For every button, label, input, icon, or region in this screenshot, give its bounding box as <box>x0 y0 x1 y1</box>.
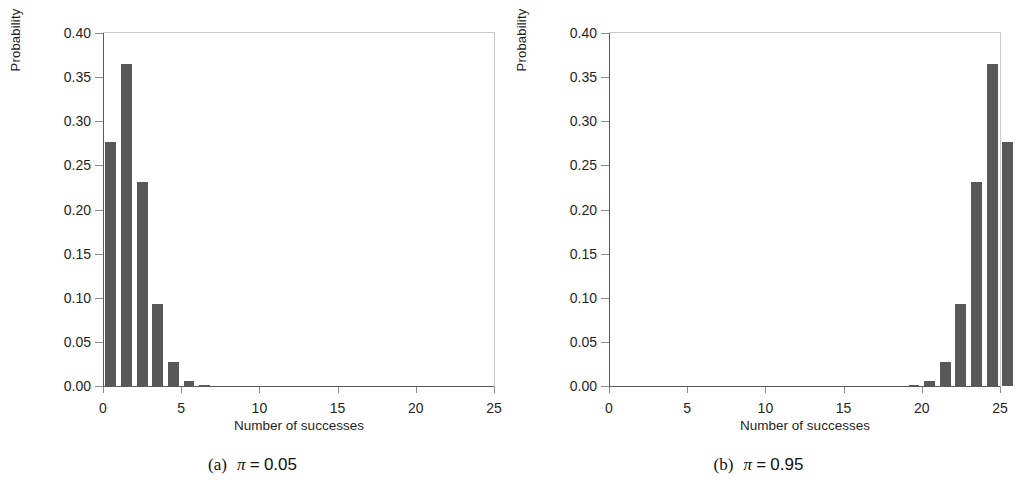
y-tick-a-8 <box>95 33 103 34</box>
bar-b-x20 <box>924 381 935 386</box>
x-axis-label-b: Number of successes <box>609 418 1001 433</box>
y-tick-b-5 <box>601 165 609 166</box>
y-tick-label-b-2: 0.10 <box>537 291 597 305</box>
bar-b-x23 <box>971 182 982 386</box>
x-tick-label-b-5: 25 <box>980 401 1017 415</box>
bar-a-x6 <box>199 385 210 386</box>
bar-a-x4 <box>168 362 179 386</box>
y-tick-a-6 <box>95 121 103 122</box>
y-tick-label-b-1: 0.05 <box>537 335 597 349</box>
bar-b-x19 <box>909 385 920 386</box>
x-tick-b-1 <box>687 387 688 393</box>
y-tick-label-a-6: 0.30 <box>31 114 91 128</box>
x-tick-label-b-1: 5 <box>667 401 707 415</box>
x-tick-a-1 <box>181 387 182 393</box>
x-tick-label-b-4: 20 <box>902 401 942 415</box>
y-tick-b-8 <box>601 33 609 34</box>
bar-b-x21 <box>940 362 951 386</box>
x-tick-a-5 <box>494 387 495 393</box>
y-tick-b-7 <box>601 77 609 78</box>
bar-b-x24 <box>987 64 998 386</box>
y-tick-b-2 <box>601 298 609 299</box>
caption-pi-symbol-b: π <box>743 455 752 474</box>
y-tick-b-3 <box>601 254 609 255</box>
y-tick-a-3 <box>95 254 103 255</box>
x-tick-label-a-3: 15 <box>318 401 358 415</box>
y-tick-label-b-7: 0.35 <box>537 70 597 84</box>
y-tick-b-0 <box>601 386 609 387</box>
bar-a-x2 <box>137 182 148 386</box>
x-axis-line-b <box>609 386 1000 387</box>
x-tick-label-a-1: 5 <box>161 401 201 415</box>
y-tick-label-a-5: 0.25 <box>31 158 91 172</box>
x-tick-a-0 <box>103 387 104 393</box>
y-tick-b-6 <box>601 121 609 122</box>
y-tick-label-b-8: 0.40 <box>537 26 597 40</box>
caption-index-b: (b) <box>714 455 734 474</box>
y-tick-label-a-1: 0.05 <box>31 335 91 349</box>
caption-equals-b: = <box>756 455 766 474</box>
x-tick-a-4 <box>416 387 417 393</box>
chart-panel-b: Probability 0.000.050.100.150.200.250.30… <box>506 0 1011 497</box>
y-axis-line-a <box>103 33 104 387</box>
bar-b-x22 <box>955 304 966 386</box>
chart-panel-a: Probability 0.000.050.100.150.200.250.30… <box>0 0 505 497</box>
y-tick-a-5 <box>95 165 103 166</box>
x-tick-b-4 <box>922 387 923 393</box>
x-axis-line-a <box>103 386 494 387</box>
caption-equals-a: = <box>250 455 260 474</box>
caption-value-b: 0.95 <box>770 455 803 474</box>
y-tick-label-b-4: 0.20 <box>537 203 597 217</box>
panel-caption-a: (a)π = 0.05 <box>0 455 505 475</box>
x-tick-a-2 <box>259 387 260 393</box>
y-tick-b-1 <box>601 342 609 343</box>
y-tick-label-b-0: 0.00 <box>537 379 597 393</box>
y-tick-a-2 <box>95 298 103 299</box>
caption-value-a: 0.05 <box>264 455 297 474</box>
y-axis-label-a: Probability <box>8 0 26 120</box>
plot-area-b: 0.000.050.100.150.200.250.300.350.400510… <box>609 32 1001 387</box>
y-tick-label-b-5: 0.25 <box>537 158 597 172</box>
bar-a-x3 <box>152 304 163 386</box>
x-tick-b-2 <box>765 387 766 393</box>
plot-area-a: 0.000.050.100.150.200.250.300.350.400510… <box>103 32 495 387</box>
bar-a-x0 <box>105 142 116 386</box>
y-tick-a-1 <box>95 342 103 343</box>
y-tick-label-b-6: 0.30 <box>537 114 597 128</box>
y-tick-label-a-2: 0.10 <box>31 291 91 305</box>
x-tick-label-a-2: 10 <box>239 401 279 415</box>
x-tick-label-b-3: 15 <box>824 401 864 415</box>
x-tick-b-5 <box>1000 387 1001 393</box>
x-tick-label-b-2: 10 <box>745 401 785 415</box>
bar-b-x25 <box>1002 142 1013 386</box>
y-tick-a-7 <box>95 77 103 78</box>
y-tick-a-4 <box>95 210 103 211</box>
y-tick-label-b-3: 0.15 <box>537 247 597 261</box>
y-tick-label-a-7: 0.35 <box>31 70 91 84</box>
y-axis-label-b: Probability <box>514 0 532 120</box>
y-tick-b-4 <box>601 210 609 211</box>
x-tick-b-0 <box>609 387 610 393</box>
panel-caption-b: (b)π = 0.95 <box>506 455 1011 475</box>
x-tick-a-3 <box>338 387 339 393</box>
y-axis-line-b <box>609 33 610 387</box>
x-tick-b-3 <box>844 387 845 393</box>
bar-a-x5 <box>184 381 195 386</box>
caption-pi-symbol-a: π <box>237 455 246 474</box>
y-tick-label-a-4: 0.20 <box>31 203 91 217</box>
x-tick-label-a-4: 20 <box>396 401 436 415</box>
x-tick-label-a-0: 0 <box>83 401 123 415</box>
x-axis-label-a: Number of successes <box>103 418 495 433</box>
y-tick-label-a-0: 0.00 <box>31 379 91 393</box>
y-tick-a-0 <box>95 386 103 387</box>
bar-a-x1 <box>121 64 132 386</box>
caption-index-a: (a) <box>208 455 227 474</box>
x-tick-label-b-0: 0 <box>589 401 629 415</box>
y-tick-label-a-3: 0.15 <box>31 247 91 261</box>
y-tick-label-a-8: 0.40 <box>31 26 91 40</box>
